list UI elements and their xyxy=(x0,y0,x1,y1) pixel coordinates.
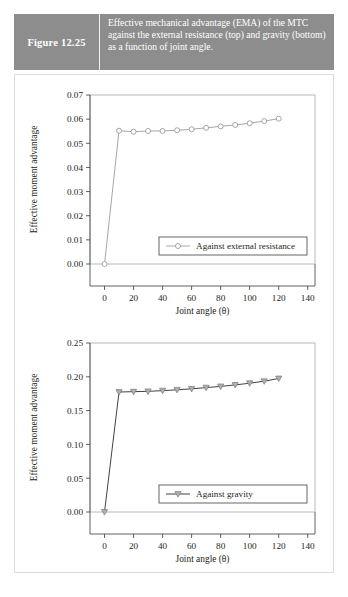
figure-container: Figure 12.25 Effective mechanical advant… xyxy=(0,0,348,597)
x-tick-label: 140 xyxy=(301,293,315,303)
data-point-marker xyxy=(204,125,209,130)
y-tick-label: 0.10 xyxy=(67,440,83,450)
data-point-marker xyxy=(189,127,194,132)
data-point-marker xyxy=(247,121,252,126)
x-tick-label: 60 xyxy=(187,293,197,303)
x-tick-label: 40 xyxy=(158,293,168,303)
data-point-marker xyxy=(102,262,107,267)
figure-panel: 0.000.010.020.030.040.050.060.0702040608… xyxy=(14,74,334,573)
y-tick-label: 0.02 xyxy=(67,211,83,221)
y-axis-title: Effective moment advantage xyxy=(29,126,39,234)
x-tick-label: 40 xyxy=(158,541,168,551)
y-tick-label: 0.20 xyxy=(67,372,83,382)
legend-sample-marker xyxy=(176,244,181,249)
x-tick-label: 0 xyxy=(102,541,107,551)
chart-bottom-gravity: 0.000.050.100.150.200.250204060801001201… xyxy=(15,327,335,567)
y-tick-label: 0.25 xyxy=(67,338,83,348)
x-tick-label: 120 xyxy=(272,293,286,303)
figure-caption-band: Figure 12.25 Effective mechanical advant… xyxy=(14,14,334,70)
figure-number-label: Figure 12.25 xyxy=(14,14,100,70)
data-point-marker xyxy=(175,128,180,133)
data-point-marker xyxy=(218,124,223,129)
x-tick-label: 80 xyxy=(216,293,226,303)
x-tick-label: 80 xyxy=(216,541,226,551)
y-axis-title: Effective moment advantage xyxy=(29,374,39,482)
x-tick-label: 20 xyxy=(129,293,139,303)
y-tick-label: 0.07 xyxy=(67,90,83,100)
x-tick-label: 100 xyxy=(243,293,257,303)
data-point-marker xyxy=(276,116,281,121)
data-point-marker xyxy=(146,128,151,133)
x-tick-label: 20 xyxy=(129,541,139,551)
y-tick-label: 0.00 xyxy=(67,507,83,517)
y-tick-label: 0.05 xyxy=(67,474,83,484)
y-tick-label: 0.01 xyxy=(67,235,83,245)
chart-top-external-resistance: 0.000.010.020.030.040.050.060.0702040608… xyxy=(15,79,335,319)
y-tick-label: 0.15 xyxy=(67,406,83,416)
x-tick-label: 140 xyxy=(301,541,315,551)
figure-caption-text: Effective mechanical advantage (EMA) of … xyxy=(100,14,334,70)
y-tick-label: 0.00 xyxy=(67,259,83,269)
x-tick-label: 100 xyxy=(243,541,257,551)
chart-svg: 0.000.050.100.150.200.250204060801001201… xyxy=(15,327,335,567)
x-axis-title: Joint angle (θ) xyxy=(176,554,230,565)
legend-label: Against gravity xyxy=(196,489,253,499)
y-tick-label: 0.05 xyxy=(67,139,83,149)
x-tick-label: 60 xyxy=(187,541,197,551)
x-tick-label: 120 xyxy=(272,541,286,551)
data-point-marker xyxy=(160,128,165,133)
data-point-marker xyxy=(117,128,122,133)
x-tick-label: 0 xyxy=(102,293,107,303)
y-tick-label: 0.04 xyxy=(67,163,83,173)
legend-label: Against external resistance xyxy=(196,241,295,251)
data-point-marker xyxy=(262,119,267,124)
data-point-marker xyxy=(131,129,136,134)
x-axis-title: Joint angle (θ) xyxy=(176,306,230,317)
data-point-marker xyxy=(233,122,238,127)
y-tick-label: 0.03 xyxy=(67,187,83,197)
y-tick-label: 0.06 xyxy=(67,114,83,124)
chart-svg: 0.000.010.020.030.040.050.060.0702040608… xyxy=(15,79,335,319)
